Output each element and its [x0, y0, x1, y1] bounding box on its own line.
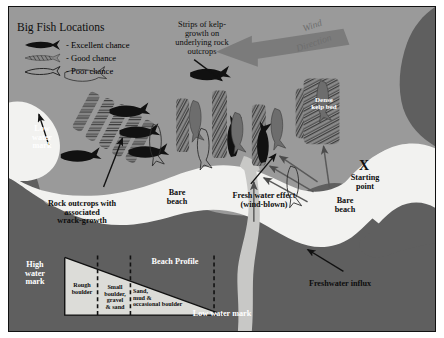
profile-zone-2-label: Small boulder, gravel & sand — [100, 284, 130, 310]
legend-label-good: - Good chance — [66, 53, 116, 63]
legend-label-excellent: - Excellent chance — [66, 40, 129, 50]
solid-fish-icon — [23, 39, 61, 51]
outline-fish-icon — [23, 65, 61, 77]
kelp-strips-annotation: Strips of kelp- growth on underlying roc… — [152, 21, 252, 57]
dense-kelp-bed-label: Dense kelp bed — [303, 97, 345, 112]
figure-canvas: Big Fish Locations - Excellent chance — [0, 0, 444, 338]
starting-point-label: Starting point — [339, 174, 391, 191]
rock-outcrops-annotation: Rock outcrops with associated wrack-grow… — [21, 200, 143, 226]
low-water-mark-left-label: Low water mark — [22, 125, 62, 151]
profile-zone-1-label: Rough boulder — [67, 282, 97, 295]
legend-item-poor[interactable]: - Poor chance — [23, 64, 183, 77]
low-water-mark-profile-label: Low water mark — [179, 310, 265, 319]
starting-point-marker: X — [349, 159, 379, 174]
legend-label-poor: - Poor chance — [66, 66, 113, 76]
fresh-water-effect-annotation: Fresh water effect (wind-blown) — [211, 192, 317, 209]
high-water-mark-label: High water mark — [13, 261, 57, 287]
profile-zone-3-label: Sand, mud & occasional boulder — [133, 288, 195, 308]
bare-beach-right-label: Bare beach — [317, 197, 373, 214]
bare-beach-left-label: Bare beach — [149, 189, 205, 206]
freshwater-influx-label: Freshwater influx — [285, 280, 395, 289]
figure-frame: Big Fish Locations - Excellent chance — [8, 6, 436, 332]
beach-profile-title: Beach Profile — [135, 258, 215, 267]
legend-title: Big Fish Locations — [17, 21, 157, 33]
hatched-fish-icon — [23, 52, 61, 64]
